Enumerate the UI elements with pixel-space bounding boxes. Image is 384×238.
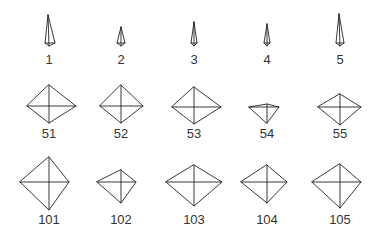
pyramid-shape-4	[264, 24, 270, 46]
shape-label-101: 101	[38, 212, 60, 227]
pyramid-shape-103	[166, 165, 222, 206]
shape-label-52: 52	[114, 126, 128, 141]
pyramid-shape-104	[241, 165, 287, 203]
shape-label-5: 5	[336, 52, 343, 67]
pyramid-shape-3	[191, 22, 197, 46]
pyramid-shape-52	[100, 85, 143, 123]
shape-label-53: 53	[187, 126, 201, 141]
shape-label-1: 1	[45, 52, 52, 67]
shape-label-104: 104	[256, 212, 278, 227]
pyramid-shape-105	[312, 164, 361, 208]
shape-label-4: 4	[263, 52, 270, 67]
pyramid-shape-53	[172, 87, 221, 124]
shape-figure: 1 2 3 4 5 51 52 53	[0, 0, 384, 238]
shape-label-3: 3	[190, 52, 197, 67]
pyramid-shape-55	[318, 94, 361, 125]
shape-label-54: 54	[260, 126, 274, 141]
shape-label-105: 105	[329, 212, 351, 227]
shape-label-51: 51	[42, 126, 56, 141]
pyramid-shape-54	[249, 104, 279, 123]
pyramid-shape-102	[97, 170, 136, 203]
pyramid-shape-5	[336, 14, 344, 46]
shape-label-2: 2	[117, 52, 124, 67]
shape-label-102: 102	[110, 212, 132, 227]
shape-label-55: 55	[333, 126, 347, 141]
pyramid-shape-1	[45, 15, 55, 46]
pyramid-shape-101	[20, 157, 69, 210]
pyramid-shape-2	[117, 27, 125, 46]
shape-label-103: 103	[183, 212, 205, 227]
pyramid-shape-51	[27, 85, 76, 123]
